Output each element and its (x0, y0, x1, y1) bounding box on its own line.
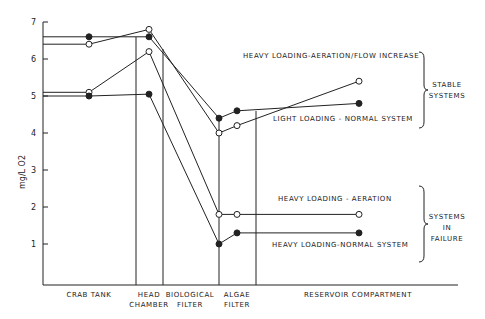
brace (419, 186, 428, 262)
y-tick-label: 5 (31, 92, 36, 101)
brace (419, 52, 428, 128)
group-label: SYSTEMS (429, 213, 466, 221)
compartment-label: CHAMBER (129, 301, 168, 309)
compartment-label: HEAD (138, 291, 160, 299)
y-tick-label: 7 (31, 18, 36, 27)
y-tick-label: 2 (31, 203, 36, 212)
y-tick-label: 1 (31, 240, 36, 249)
series-line (43, 52, 359, 215)
group-label: IN (443, 224, 452, 232)
compartment-label: RESERVOIR COMPARTMENT (304, 291, 412, 299)
compartment-label: BIOLOGICAL (166, 291, 215, 299)
group-label: SYSTEMS (429, 92, 466, 100)
series-2 (43, 49, 362, 218)
compartment-label: ALGAE (224, 291, 250, 299)
data-point (234, 123, 240, 129)
data-point (146, 34, 152, 40)
y-ticks: 1234567 (31, 18, 48, 249)
data-point (146, 91, 152, 97)
data-point (86, 34, 92, 40)
compartment-label: FILTER (224, 301, 250, 309)
series-label: HEAVY LOADING-AERATION/FLOW INCREASE (243, 52, 419, 60)
data-point (356, 78, 362, 84)
y-tick-label: 6 (31, 55, 36, 64)
data-point (216, 241, 222, 247)
y-tick-label: 4 (31, 129, 36, 138)
data-point (216, 211, 222, 217)
data-point (86, 41, 92, 47)
data-point (86, 93, 92, 99)
series-label: HEAVY LOADING - AERATION (278, 195, 392, 203)
data-point (234, 108, 240, 114)
y-tick-label: 3 (31, 166, 36, 175)
y-axis-label: mg/L O2 (18, 155, 27, 189)
group-label: STABLE (432, 81, 462, 89)
data-point (216, 115, 222, 121)
data-point (356, 230, 362, 236)
data-point (356, 100, 362, 106)
series-label: LIGHT LOADING - NORMAL SYSTEM (273, 115, 413, 123)
data-point (216, 130, 222, 136)
compartment-label: FILTER (177, 301, 203, 309)
data-point (234, 230, 240, 236)
series-label: HEAVY LOADING-NORMAL SYSTEM (272, 241, 408, 249)
compartment-label: CRAB TANK (66, 291, 111, 299)
group-label: FAILURE (431, 235, 463, 243)
data-point (356, 211, 362, 217)
x-labels: CRAB TANKHEADCHAMBERBIOLOGICALFILTERALGA… (66, 291, 412, 309)
oxygen-chart: 1234567 mg/L O2 CRAB TANKHEADCHAMBERBIOL… (0, 0, 485, 319)
data-point (234, 211, 240, 217)
data-point (146, 49, 152, 55)
data-point (146, 26, 152, 32)
